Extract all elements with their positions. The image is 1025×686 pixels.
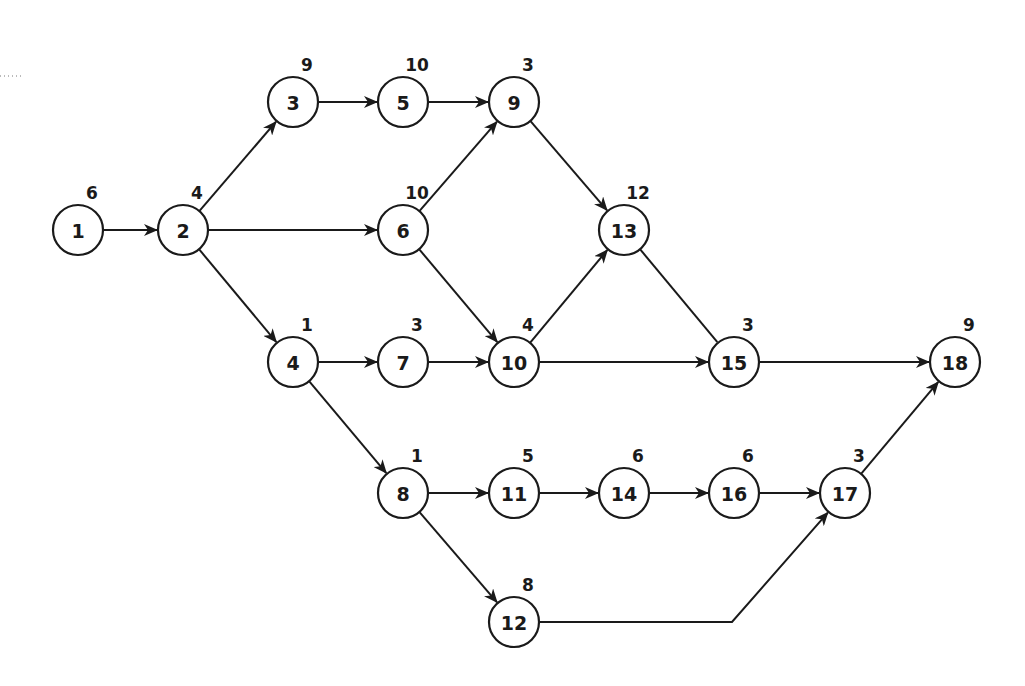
node-9: 93 bbox=[489, 55, 539, 127]
edge-6-to-9 bbox=[419, 122, 497, 211]
node-14: 146 bbox=[599, 446, 649, 518]
edge-6-to-10 bbox=[419, 249, 497, 342]
edge-4-to-8 bbox=[309, 381, 386, 473]
edge-17-to-18 bbox=[861, 382, 938, 474]
node-11: 115 bbox=[489, 446, 539, 518]
node-duration: 5 bbox=[522, 446, 534, 466]
node-label: 18 bbox=[942, 352, 968, 374]
edge-8-to-12 bbox=[419, 512, 497, 602]
node-label: 14 bbox=[611, 483, 637, 505]
node-label: 2 bbox=[176, 220, 189, 242]
node-duration: 6 bbox=[632, 446, 644, 466]
node-duration: 12 bbox=[626, 183, 650, 203]
node-label: 7 bbox=[396, 352, 409, 374]
node-duration: 8 bbox=[522, 575, 534, 595]
node-duration: 4 bbox=[522, 315, 534, 335]
node-label: 4 bbox=[286, 352, 299, 374]
node-2: 24 bbox=[158, 183, 208, 255]
edge-13-to-15 bbox=[640, 249, 717, 342]
node-18: 189 bbox=[930, 315, 980, 387]
node-label: 3 bbox=[286, 92, 299, 114]
edge-2-to-3 bbox=[199, 122, 276, 211]
node-duration: 6 bbox=[742, 446, 754, 466]
node-label: 1 bbox=[71, 220, 84, 242]
edge-9-to-13 bbox=[530, 121, 607, 210]
node-duration: 9 bbox=[301, 55, 313, 75]
node-1: 16 bbox=[53, 183, 103, 255]
node-label: 12 bbox=[501, 612, 527, 634]
node-label: 10 bbox=[501, 352, 527, 374]
node-13: 1312 bbox=[599, 183, 650, 255]
node-5: 510 bbox=[378, 55, 429, 127]
node-duration: 3 bbox=[853, 446, 865, 466]
node-duration: 10 bbox=[405, 55, 429, 75]
node-label: 5 bbox=[396, 92, 409, 114]
node-label: 15 bbox=[721, 352, 747, 374]
node-3: 39 bbox=[268, 55, 318, 127]
edge-10-to-13 bbox=[530, 250, 607, 343]
nodes-layer: 1624394151061073819310411512813121461531… bbox=[53, 55, 980, 647]
node-17: 173 bbox=[820, 446, 870, 518]
node-duration: 1 bbox=[301, 315, 313, 335]
node-label: 9 bbox=[507, 92, 520, 114]
node-label: 11 bbox=[501, 483, 527, 505]
node-duration: 9 bbox=[963, 315, 975, 335]
node-duration: 4 bbox=[191, 183, 203, 203]
node-label: 6 bbox=[396, 220, 409, 242]
node-duration: 3 bbox=[742, 315, 754, 335]
node-label: 16 bbox=[721, 483, 747, 505]
node-label: 13 bbox=[611, 220, 637, 242]
node-label: 8 bbox=[396, 483, 409, 505]
node-12: 128 bbox=[489, 575, 539, 647]
edge-12-to-17 bbox=[539, 513, 828, 622]
node-duration: 6 bbox=[86, 183, 98, 203]
node-16: 166 bbox=[709, 446, 759, 518]
node-4: 41 bbox=[268, 315, 318, 387]
node-10: 104 bbox=[489, 315, 539, 387]
node-label: 17 bbox=[832, 483, 858, 505]
node-duration: 1 bbox=[411, 446, 423, 466]
node-6: 610 bbox=[378, 183, 429, 255]
node-duration: 3 bbox=[411, 315, 423, 335]
edge-2-to-4 bbox=[199, 249, 276, 342]
node-duration: 10 bbox=[405, 183, 429, 203]
node-duration: 3 bbox=[522, 55, 534, 75]
node-8: 81 bbox=[378, 446, 428, 518]
node-15: 153 bbox=[709, 315, 759, 387]
node-7: 73 bbox=[378, 315, 428, 387]
network-diagram: 1624394151061073819310411512813121461531… bbox=[0, 0, 1025, 686]
